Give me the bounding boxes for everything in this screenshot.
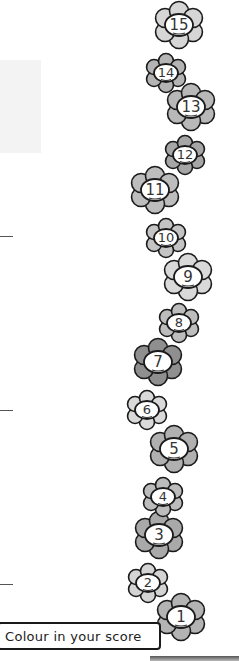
score-flower-ladder: 123456789101112131415 [0,0,239,661]
flower-number: 3 [154,526,164,544]
flower-number: 6 [143,402,151,417]
score-flower-7[interactable]: 7 [135,339,182,386]
flower-number: 7 [153,353,163,371]
score-flower-12[interactable]: 12 [166,136,205,175]
flower-number: 9 [183,268,193,286]
score-flower-11[interactable]: 11 [132,167,179,214]
instruction-text: Colour in your score [5,629,142,644]
score-flower-14[interactable]: 14 [147,54,186,93]
score-flower-4[interactable]: 4 [144,478,183,517]
flower-number: 14 [158,65,175,80]
score-flower-8[interactable]: 8 [160,304,199,343]
score-flower-5[interactable]: 5 [151,426,198,473]
score-flower-1[interactable]: 1 [158,594,205,641]
score-flower-2[interactable]: 2 [129,564,168,603]
flower-number: 2 [144,575,152,590]
flower-number: 15 [169,16,188,34]
score-flower-13[interactable]: 13 [168,84,215,131]
score-flower-9[interactable]: 9 [165,254,212,301]
flower-number: 11 [145,181,164,199]
score-flower-6[interactable]: 6 [128,391,167,430]
flower-number: 4 [159,489,167,504]
score-flower-10[interactable]: 10 [147,219,186,258]
flower-number: 13 [181,98,200,116]
flower-number: 10 [158,230,175,245]
flower-number: 8 [175,315,183,330]
bottom-bar [150,656,239,661]
score-flower-15[interactable]: 15 [156,2,203,49]
flower-number: 5 [169,440,179,458]
flower-number: 12 [177,147,194,162]
flower-number: 1 [176,608,186,626]
score-flower-3[interactable]: 3 [136,512,183,559]
colour-score-label: Colour in your score [0,622,161,650]
